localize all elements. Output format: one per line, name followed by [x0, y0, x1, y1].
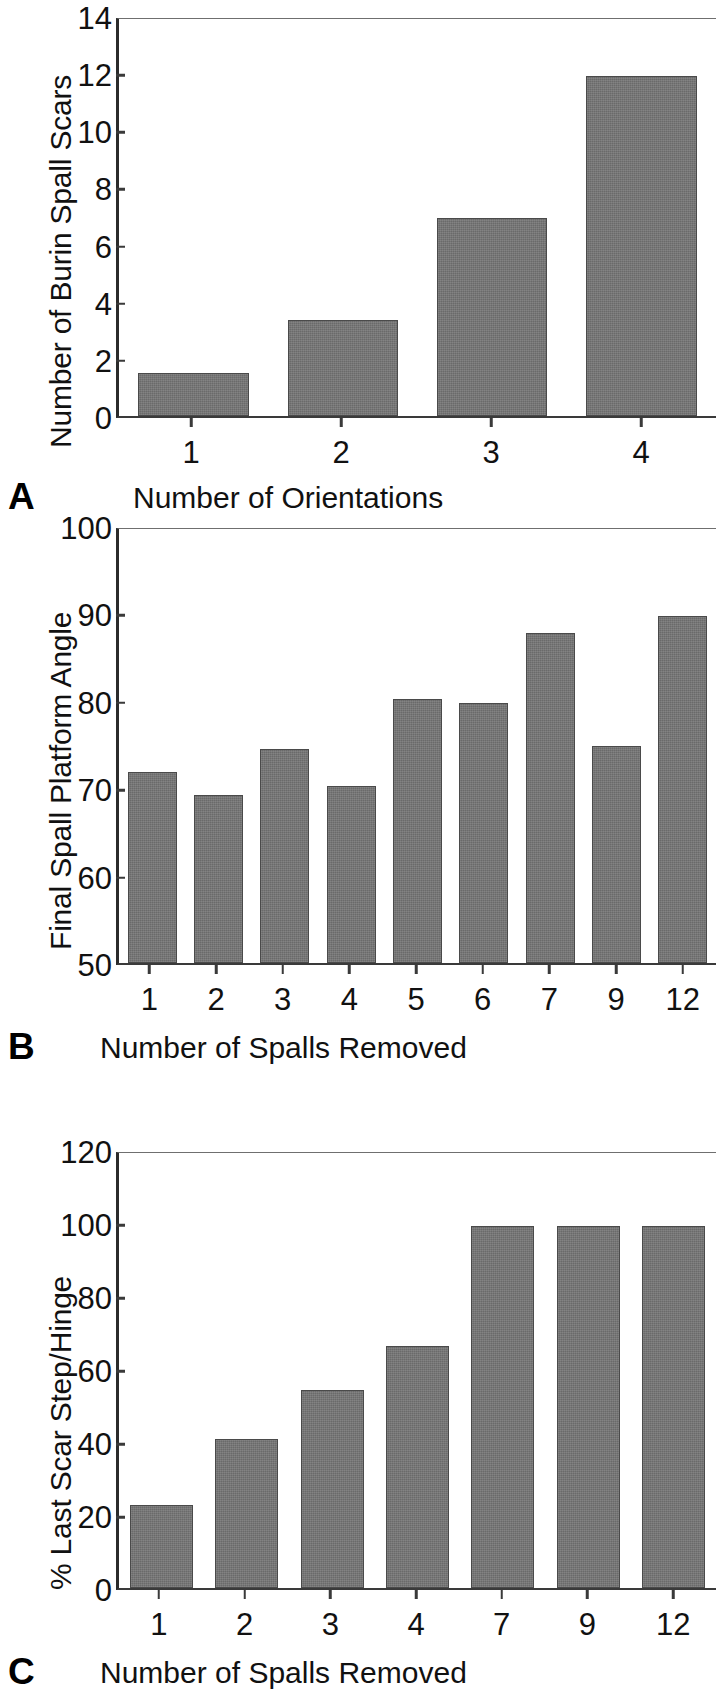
- x-tick-label: 2: [266, 437, 416, 468]
- x-tick-mark: [348, 965, 351, 974]
- y-tick-label: 0: [0, 1575, 125, 1606]
- x-tick-label: 9: [545, 1609, 631, 1640]
- x-tick-mark: [148, 965, 151, 974]
- y-tick-mark: [116, 74, 125, 77]
- bar-slot: [418, 19, 567, 416]
- y-tick-label: 100: [0, 1210, 125, 1241]
- bar-slot: [650, 529, 716, 963]
- y-tick-label: 0: [0, 403, 125, 434]
- bar: [130, 1505, 193, 1588]
- panel-c-label: C: [8, 1651, 35, 1693]
- x-tick-mark: [215, 965, 218, 974]
- bar-slot: [119, 529, 185, 963]
- bar-slot: [119, 1153, 204, 1588]
- panel-b-x-tick-labels: 1234567912: [116, 984, 716, 1015]
- bar: [471, 1226, 534, 1589]
- bar-slot: [384, 529, 450, 963]
- y-tick-mark: [116, 188, 125, 191]
- bar-slot: [631, 1153, 716, 1588]
- x-tick-mark: [158, 1590, 161, 1599]
- bar-slot: [451, 529, 517, 963]
- bar: [586, 76, 696, 416]
- y-tick-mark: [116, 614, 125, 617]
- bar: [557, 1226, 620, 1589]
- panel-b-bars: [119, 529, 716, 963]
- x-tick-label: 1: [116, 984, 183, 1015]
- panel-c-bars: [119, 1153, 716, 1588]
- bar: [393, 699, 442, 963]
- panel-b-x-axis-title: Number of Spalls Removed: [100, 1031, 467, 1065]
- bar: [642, 1226, 705, 1589]
- y-tick-label: 60: [0, 862, 125, 893]
- bar-slot: [318, 529, 384, 963]
- x-tick-mark: [243, 1590, 246, 1599]
- panel-c: % Last Scar Step/Hinge 120100806040200 1…: [0, 1090, 697, 1707]
- x-tick-mark: [481, 965, 484, 974]
- bar-slot: [290, 1153, 375, 1588]
- y-tick-mark: [116, 1443, 125, 1446]
- y-tick-mark: [116, 702, 125, 705]
- bar-slot: [545, 1153, 630, 1588]
- x-tick-label: 2: [183, 984, 250, 1015]
- x-tick-label: 3: [416, 437, 566, 468]
- y-tick-label: 100: [0, 513, 125, 544]
- y-tick-mark: [116, 131, 125, 134]
- x-tick-label: 5: [383, 984, 450, 1015]
- y-tick-label: 10: [0, 117, 125, 148]
- y-tick-mark: [116, 1370, 125, 1373]
- y-tick-label: 2: [0, 345, 125, 376]
- y-tick-label: 90: [0, 600, 125, 631]
- x-tick-label: 7: [516, 984, 583, 1015]
- x-tick-label: 4: [316, 984, 383, 1015]
- x-tick-label: 1: [116, 437, 266, 468]
- bar: [437, 218, 547, 417]
- x-tick-mark: [672, 1590, 675, 1599]
- y-tick-label: 80: [0, 687, 125, 718]
- y-tick-mark: [116, 360, 125, 363]
- x-tick-mark: [586, 1590, 589, 1599]
- y-tick-label: 70: [0, 775, 125, 806]
- panel-a: Number of Burin Spall Scars 14121086420 …: [0, 0, 697, 510]
- panel-b: Final Spall Platform Angle 1009080706050…: [0, 510, 697, 1090]
- y-tick-label: 120: [0, 1137, 125, 1168]
- panel-a-bars: [119, 19, 716, 416]
- panel-a-plot-area: [116, 18, 716, 418]
- y-tick-label: 80: [0, 1283, 125, 1314]
- x-tick-mark: [681, 965, 684, 974]
- y-tick-label: 20: [0, 1502, 125, 1533]
- bar-slot: [119, 19, 268, 416]
- bar: [526, 633, 575, 963]
- y-tick-mark: [116, 789, 125, 792]
- x-tick-mark: [548, 965, 551, 974]
- bar: [138, 373, 248, 416]
- bar-slot: [517, 529, 583, 963]
- panel-a-x-tick-labels: 1234: [116, 437, 716, 468]
- y-tick-label: 8: [0, 174, 125, 205]
- y-tick-mark: [116, 1516, 125, 1519]
- y-tick-mark: [116, 876, 125, 879]
- bar: [327, 786, 376, 963]
- x-tick-mark: [615, 965, 618, 974]
- y-tick-mark: [116, 302, 125, 305]
- bar: [288, 320, 398, 416]
- bar: [128, 772, 177, 963]
- panel-b-label: B: [8, 1026, 35, 1068]
- y-tick-label: 6: [0, 231, 125, 262]
- x-tick-label: 7: [459, 1609, 545, 1640]
- x-tick-mark: [500, 1590, 503, 1599]
- x-tick-mark: [415, 965, 418, 974]
- bar: [592, 746, 641, 963]
- bar-slot: [567, 19, 716, 416]
- y-tick-mark: [116, 1224, 125, 1227]
- bar-slot: [268, 19, 417, 416]
- x-tick-mark: [329, 1590, 332, 1599]
- bar-slot: [460, 1153, 545, 1588]
- bar-slot: [252, 529, 318, 963]
- bar: [459, 703, 508, 963]
- x-tick-mark: [281, 965, 284, 974]
- panel-c-plot-area: [116, 1152, 716, 1590]
- bar-slot: [375, 1153, 460, 1588]
- x-tick-label: 12: [649, 984, 716, 1015]
- x-tick-label: 3: [287, 1609, 373, 1640]
